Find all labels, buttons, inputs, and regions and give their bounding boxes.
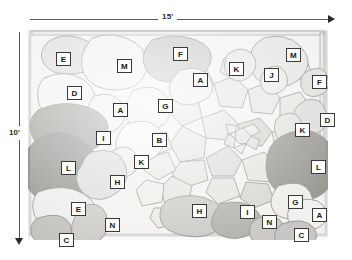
plant-label-k: K <box>295 123 310 137</box>
plant-label-e: E <box>56 52 71 66</box>
plant-label-d: D <box>320 113 335 127</box>
plant-label-l: L <box>61 161 76 175</box>
patio-plan-drawing: 15' 10' <box>0 0 352 260</box>
plant-label-g: G <box>288 195 303 209</box>
plant-label-f: F <box>312 75 327 89</box>
plant-label-j: J <box>264 68 279 82</box>
height-dimension-label: 10' <box>8 126 21 140</box>
plant-label-n: N <box>262 215 277 229</box>
plant-label-a: A <box>113 103 128 117</box>
plant-label-i: I <box>240 205 255 219</box>
plant-label-b: B <box>152 133 167 147</box>
plant-label-i: I <box>96 131 111 145</box>
height-dimension-arrowhead <box>15 238 23 245</box>
plant-label-e: E <box>71 202 86 216</box>
width-dimension-line <box>30 19 330 20</box>
plant-label-h: H <box>110 175 125 189</box>
plant-label-k: K <box>134 155 149 169</box>
plant-label-n: N <box>105 218 120 232</box>
plant-label-c: C <box>59 233 74 247</box>
width-dimension-arrowhead <box>328 15 335 23</box>
plant-label-a: A <box>193 73 208 87</box>
plant-label-d: D <box>67 86 82 100</box>
plant-label-l: L <box>311 160 326 174</box>
plant-label-g: G <box>158 99 173 113</box>
width-dimension-label: 15' <box>158 11 177 22</box>
plant-label-f: F <box>173 47 188 61</box>
plant-label-k: K <box>229 62 244 76</box>
plant-label-c: C <box>294 228 309 242</box>
plant-label-m: M <box>117 59 132 73</box>
plant-label-m: M <box>286 48 301 62</box>
plant-label-a: A <box>312 208 327 222</box>
plant-label-h: H <box>192 204 207 218</box>
